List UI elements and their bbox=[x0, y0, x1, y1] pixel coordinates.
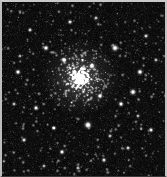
star-field-canvas bbox=[0, 0, 167, 177]
astronomical-image-panel bbox=[0, 0, 167, 177]
